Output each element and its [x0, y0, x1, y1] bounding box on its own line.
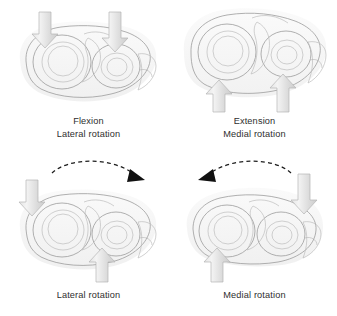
caption-top-left: Flexion Lateral rotation	[6, 115, 171, 141]
caption-bottom-left: Lateral rotation	[6, 289, 171, 302]
knee-illustration-lateral-rotation	[6, 152, 171, 282]
joint-capsule-halo	[184, 8, 326, 97]
panel-top-right	[172, 0, 337, 114]
panel-bottom-right	[172, 152, 337, 282]
knee-illustration-extension	[172, 0, 337, 114]
rotation-arc-counterclockwise	[198, 161, 291, 182]
caption-bottom-left-line1: Lateral rotation	[6, 289, 171, 302]
knee-illustration-medial-rotation	[172, 152, 337, 282]
panel-top-left	[6, 4, 171, 114]
panel-bottom-left	[6, 152, 171, 282]
knee-rotation-figure: Flexion Lateral rotation	[0, 0, 337, 316]
caption-bottom-right: Medial rotation	[172, 289, 337, 302]
caption-top-left-line1: Flexion	[6, 115, 171, 128]
caption-top-left-line2: Lateral rotation	[6, 128, 171, 141]
knee-illustration-flexion	[6, 4, 171, 114]
caption-top-right-line1: Extension	[172, 115, 337, 128]
caption-top-right-line2: Medial rotation	[172, 128, 337, 141]
rotation-arc-clockwise	[52, 161, 145, 182]
caption-bottom-right-line1: Medial rotation	[172, 289, 337, 302]
caption-top-right: Extension Medial rotation	[172, 115, 337, 141]
